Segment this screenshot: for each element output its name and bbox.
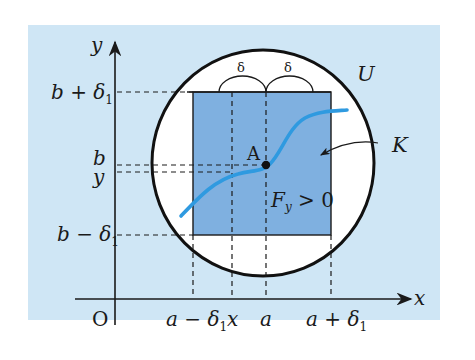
y-tick-y: y <box>92 165 105 189</box>
x-tick-a: a <box>260 307 272 331</box>
label-K: K <box>391 133 409 157</box>
label-point-A: A <box>246 143 261 164</box>
x-axis-label: x <box>414 286 425 310</box>
x-tick-a-plus-delta1: a + δ1 <box>306 307 367 334</box>
y-tick-b-minus-delta1: b − δ1 <box>57 222 119 249</box>
y-tick-b-plus-delta1: b + δ1 <box>51 80 113 107</box>
point-A <box>262 161 270 169</box>
set-K-rectangle <box>193 92 331 235</box>
implicit-function-diagram: y x O b + δ1 b y b − δ1 a − δ1 x a a + δ… <box>0 0 475 360</box>
label-delta-left: δ <box>237 60 245 75</box>
origin-label: O <box>92 307 108 331</box>
x-tick-a-minus-delta1: a − δ1 <box>166 307 227 334</box>
label-U: U <box>357 62 376 86</box>
y-axis-label: y <box>90 33 103 57</box>
condition-Fy-positive: Fy > 0 <box>270 188 334 214</box>
label-delta-right: δ <box>284 60 292 75</box>
x-tick-x: x <box>227 307 238 331</box>
